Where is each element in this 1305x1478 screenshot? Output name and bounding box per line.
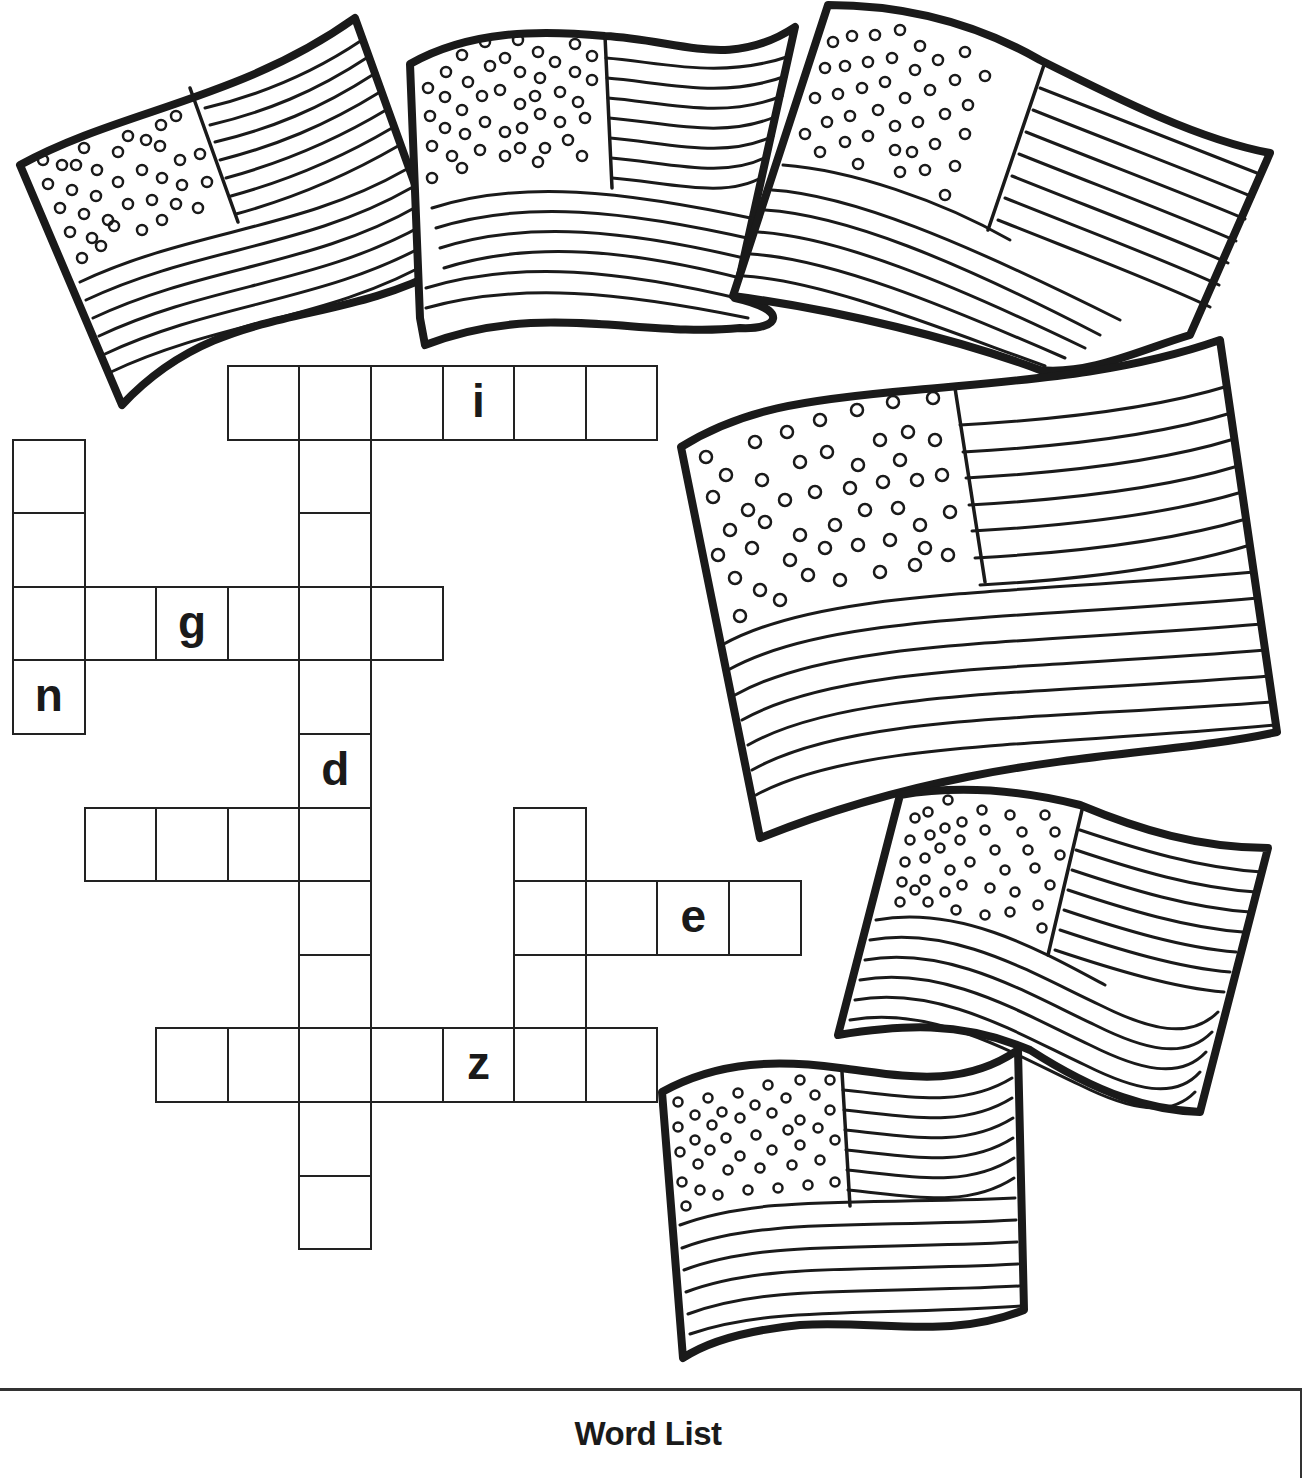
crossword-cell[interactable] <box>585 365 659 441</box>
crossword-cell[interactable] <box>585 1027 659 1103</box>
crossword-cell[interactable] <box>298 954 372 1030</box>
crossword-cell[interactable] <box>513 365 587 441</box>
crossword-cell[interactable] <box>155 807 229 883</box>
crossword-cell[interactable]: d <box>298 733 372 809</box>
crossword-cell[interactable] <box>370 365 444 441</box>
crossword-cell[interactable] <box>298 1175 372 1251</box>
crossword-cell[interactable] <box>12 586 86 662</box>
crossword-grid: igeznd <box>0 0 1305 1380</box>
crossword-cell[interactable] <box>728 880 802 956</box>
word-list-box: Word List <box>0 1388 1302 1478</box>
crossword-cell[interactable] <box>298 439 372 515</box>
crossword-cell[interactable]: n <box>12 659 86 735</box>
crossword-cell[interactable] <box>227 586 301 662</box>
crossword-cell[interactable] <box>155 1027 229 1103</box>
crossword-cell[interactable] <box>84 586 158 662</box>
crossword-cell[interactable] <box>513 880 587 956</box>
crossword-cell[interactable] <box>298 1101 372 1177</box>
crossword-cell[interactable] <box>513 954 587 1030</box>
crossword-cell[interactable] <box>227 365 301 441</box>
crossword-cell[interactable]: g <box>155 586 229 662</box>
crossword-cell[interactable]: e <box>656 880 730 956</box>
crossword-cell[interactable]: i <box>442 365 516 441</box>
crossword-cell[interactable] <box>227 807 301 883</box>
given-letter: n <box>35 672 63 718</box>
word-list-title: Word List <box>0 1415 1300 1453</box>
crossword-cell[interactable] <box>12 439 86 515</box>
given-letter: e <box>680 893 706 939</box>
crossword-cell[interactable] <box>12 512 86 588</box>
crossword-cell[interactable] <box>585 880 659 956</box>
crossword-cell[interactable] <box>298 880 372 956</box>
crossword-cell[interactable] <box>84 807 158 883</box>
crossword-cell[interactable] <box>298 807 372 883</box>
crossword-cell[interactable] <box>298 586 372 662</box>
crossword-cell[interactable] <box>370 1027 444 1103</box>
crossword-cell[interactable] <box>298 365 372 441</box>
given-letter: d <box>321 746 349 792</box>
crossword-cell[interactable] <box>227 1027 301 1103</box>
crossword-cell[interactable] <box>298 512 372 588</box>
given-letter: g <box>178 599 206 645</box>
crossword-cell[interactable] <box>370 586 444 662</box>
crossword-cell[interactable]: z <box>442 1027 516 1103</box>
given-letter: z <box>467 1040 490 1086</box>
crossword-cell[interactable] <box>298 659 372 735</box>
crossword-cell[interactable] <box>298 1027 372 1103</box>
given-letter: i <box>472 378 485 424</box>
crossword-cell[interactable] <box>513 807 587 883</box>
crossword-cell[interactable] <box>513 1027 587 1103</box>
